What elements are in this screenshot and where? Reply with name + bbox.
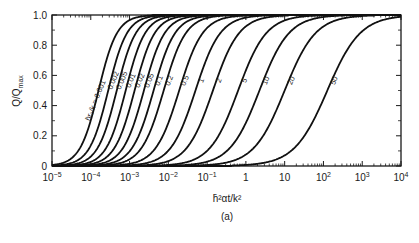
x-tick-label: 10−1 <box>198 171 217 183</box>
curve-1 <box>52 15 401 166</box>
x-tick-label: 102 <box>316 171 331 183</box>
plot-frame <box>52 15 401 166</box>
curve-10 <box>52 15 401 166</box>
curve-0.05 <box>52 15 401 166</box>
chart: 10−510−410−310−210−1110102103104 00.20.4… <box>0 0 419 243</box>
curve-0.002 <box>52 15 401 166</box>
curve-0.1 <box>52 15 401 166</box>
curve-label: h̄r₀/k = 0.001 <box>83 79 107 122</box>
curve-label: 50 <box>328 75 339 86</box>
curve-0.005 <box>52 15 401 166</box>
x-axis-title: h̄²αt/k² <box>213 193 242 204</box>
curve-label: 0.5 <box>179 74 191 87</box>
curve-label: 20 <box>285 75 296 86</box>
y-tick-label: 0.8 <box>33 40 47 51</box>
curve-0.5 <box>52 15 401 166</box>
curve-2 <box>52 15 401 166</box>
x-tick-label: 10−5 <box>42 171 61 183</box>
x-tick-label: 1 <box>243 172 249 183</box>
curve-20 <box>52 15 401 166</box>
y-axis-ticks: 00.20.40.60.81.0 <box>33 10 401 172</box>
plot-border <box>52 15 401 166</box>
curve-0.2 <box>52 15 401 166</box>
y-tick-label: 1.0 <box>33 10 47 21</box>
x-tick-label: 10 <box>279 172 291 183</box>
x-tick-label: 10−2 <box>159 171 178 183</box>
x-tick-label: 104 <box>393 171 408 183</box>
curve-0.01 <box>52 15 401 166</box>
x-tick-label: 10−4 <box>81 171 100 183</box>
curve-0.02 <box>52 15 401 166</box>
y-tick-label: 0.2 <box>33 130 47 141</box>
curves <box>52 15 401 166</box>
curve-50 <box>52 17 401 166</box>
y-tick-label: 0.4 <box>33 100 47 111</box>
y-tick-label: 0.6 <box>33 70 47 81</box>
curve-label: 10 <box>260 75 271 86</box>
figure-caption: (a) <box>221 211 233 222</box>
x-tick-label: 10−3 <box>120 171 139 183</box>
x-tick-label: 103 <box>355 171 370 183</box>
y-tick-label: 0 <box>41 161 47 172</box>
curve-label: 0.2 <box>163 74 175 87</box>
curve-5 <box>52 15 401 166</box>
y-axis-title: Q/Qmax <box>11 75 24 107</box>
